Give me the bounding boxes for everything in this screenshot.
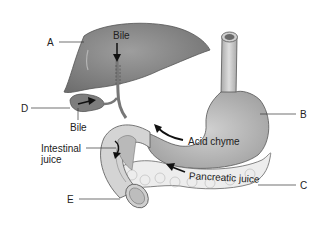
- label-d: D: [21, 103, 28, 114]
- digestive-system-diagram: [0, 0, 323, 232]
- bile-bottom-annotation: Bile: [70, 122, 87, 133]
- label-c: C: [300, 180, 307, 191]
- intestinal-juice-annotation-line2: juice: [41, 154, 62, 165]
- gallbladder: [70, 94, 104, 112]
- liver: [64, 23, 210, 92]
- label-a: A: [47, 37, 54, 48]
- label-e: E: [67, 194, 74, 205]
- stomach: [147, 91, 269, 168]
- intestinal-juice-annotation-line1: Intestinal: [41, 143, 81, 154]
- label-b: B: [300, 109, 307, 120]
- acid-chyme-annotation: Acid chyme: [188, 136, 240, 147]
- esophagus: [221, 38, 237, 100]
- bile-top-annotation: Bile: [113, 30, 130, 41]
